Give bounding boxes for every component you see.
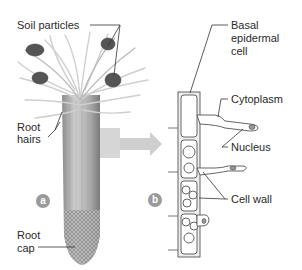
panel-a-badge: a xyxy=(36,194,50,208)
label-basal-line1: Basal xyxy=(231,19,259,31)
epidermal-cells xyxy=(178,92,200,257)
label-cell-wall: Cell wall xyxy=(231,193,272,205)
soil-particles xyxy=(26,38,121,87)
label-root-cap-line1: Root xyxy=(17,229,40,241)
label-basal-line3: cell xyxy=(231,45,248,57)
root-body xyxy=(62,95,100,265)
tick-marks xyxy=(168,128,178,250)
label-root-hairs-line1: Root xyxy=(17,121,40,133)
panel-b-badge: b xyxy=(148,193,162,207)
label-cytoplasm: Cytoplasm xyxy=(231,93,283,105)
label-basal-line2: epidermal xyxy=(231,32,279,44)
root-diagram: Soil particles Root hairs Root cap a Bas… xyxy=(0,0,302,270)
label-root-hairs-line2: hairs xyxy=(17,133,41,145)
cell-root-hairs xyxy=(197,115,258,226)
label-root-cap-line2: cap xyxy=(17,242,35,254)
label-soil-particles: Soil particles xyxy=(17,19,79,31)
label-nucleus: Nucleus xyxy=(231,141,271,153)
magnify-arrow xyxy=(100,128,162,158)
